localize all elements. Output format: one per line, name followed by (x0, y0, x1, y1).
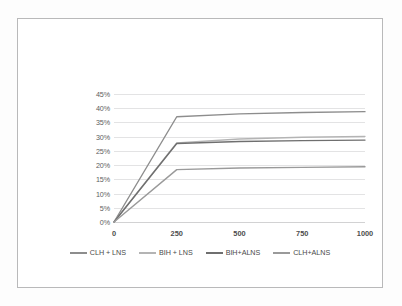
legend-swatch (70, 252, 87, 254)
legend-item[interactable]: BIH+ALNS (206, 248, 261, 257)
y-axis-tick-label: 30% (96, 132, 110, 141)
x-axis-tick-label: 0 (112, 229, 116, 238)
legend-label: CLH + LNS (90, 248, 126, 257)
legend-item[interactable]: CLH+ALNS (273, 248, 330, 257)
x-axis-tick-label: 500 (233, 229, 245, 238)
y-axis-tick-label: 35% (96, 118, 110, 127)
y-axis-tick-label: 10% (96, 189, 110, 198)
y-axis-tick-label: 0% (100, 218, 110, 227)
series-line (114, 140, 365, 222)
x-axis-tick-label: 1000 (357, 229, 373, 238)
plot-area: 0%5%10%15%20%25%30%35%40%45% 02505007501… (114, 94, 365, 222)
series-line (114, 136, 365, 222)
legend-label: BIH+ALNS (226, 248, 261, 257)
legend-swatch (206, 252, 223, 254)
legend-swatch (273, 252, 290, 254)
legend-label: CLH+ALNS (293, 248, 330, 257)
y-axis-tick-label: 45% (96, 90, 110, 99)
legend-swatch (139, 252, 156, 254)
chart-area: 0%5%10%15%20%25%30%35%40%45% 02505007501… (59, 83, 379, 264)
x-axis-tick-label: 250 (171, 229, 183, 238)
y-axis-tick-label: 25% (96, 146, 110, 155)
figure-canvas: 0%5%10%15%20%25%30%35%40%45% 02505007501… (0, 0, 402, 306)
legend-item[interactable]: CLH + LNS (70, 248, 126, 257)
series-lines (114, 94, 365, 222)
y-axis-tick-label: 20% (96, 161, 110, 170)
y-axis-tick-label: 40% (96, 104, 110, 113)
figure-frame: 0%5%10%15%20%25%30%35%40%45% 02505007501… (17, 18, 383, 288)
legend-item[interactable]: BIH + LNS (139, 248, 193, 257)
gridline: 0% (114, 222, 365, 223)
legend-label: BIH + LNS (159, 248, 193, 257)
x-axis-tick-label: 750 (296, 229, 308, 238)
y-axis-tick-label: 15% (96, 175, 110, 184)
chart-legend: CLH + LNSBIH + LNSBIH+ALNSCLH+ALNS (18, 248, 382, 257)
y-axis-tick-label: 5% (100, 203, 110, 212)
